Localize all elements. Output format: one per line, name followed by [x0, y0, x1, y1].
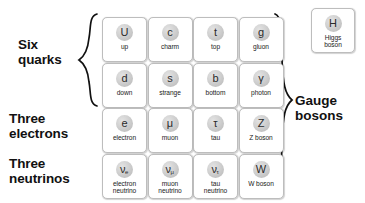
particle-card[interactable]: eelectron [102, 108, 147, 153]
particle-label: down [103, 89, 146, 96]
particle-label: up [103, 43, 146, 50]
particle-symbol: s [167, 72, 173, 83]
particle-label: electron [103, 134, 146, 141]
particle-symbol: μ [167, 118, 173, 129]
particle-card[interactable]: ccharm [148, 17, 193, 62]
particle-label: tau neutrino [194, 180, 237, 195]
particle-symbol: W [256, 163, 266, 174]
particle-card[interactable]: ZZ boson [239, 108, 284, 153]
particle-label: muon [149, 134, 192, 141]
particle-symbol-disc: g [253, 24, 270, 41]
particle-card[interactable]: sstrange [148, 63, 193, 108]
particle-symbol: U [121, 27, 129, 38]
particle-symbol: e [121, 118, 127, 129]
particle-card[interactable]: ttop [193, 17, 238, 62]
particle-symbol-subscript: μ [171, 169, 174, 175]
group-label-three-neutrinos: Three neutrinos [9, 157, 70, 186]
particle-card[interactable]: μmuon [148, 108, 193, 153]
particle-label: strange [149, 89, 192, 96]
particle-label: charm [149, 43, 192, 50]
particle-symbol-disc: e [116, 115, 133, 132]
particle-symbol: b [212, 72, 218, 83]
particle-symbol-disc: Z [253, 115, 270, 132]
particle-symbol-disc: t [207, 24, 224, 41]
particle-symbol: γ [258, 72, 264, 83]
particle-symbol-disc: W [253, 161, 270, 178]
left-curly-brace-icon [76, 12, 100, 108]
particle-symbol-disc: H [325, 15, 342, 32]
particle-card[interactable]: ggluon [239, 17, 284, 62]
particle-symbol-disc: U [116, 24, 133, 41]
particle-symbol: τ [213, 118, 217, 129]
particle-symbol-disc: τ [207, 115, 224, 132]
particle-label: gluon [240, 43, 283, 50]
particle-card-higgs[interactable]: H Higgs boson [311, 8, 355, 53]
particle-symbol-disc: b [207, 70, 224, 87]
particle-label: photon [240, 89, 283, 96]
particle-card[interactable]: νμmuon neutrino [148, 154, 193, 199]
particle-symbol-disc: νe [116, 161, 133, 178]
particle-card[interactable]: ddown [102, 63, 147, 108]
particle-label: electron neutrino [103, 180, 146, 195]
particle-card[interactable]: bbottom [193, 63, 238, 108]
particle-symbol-disc: ντ [207, 161, 224, 178]
particle-card[interactable]: τtau [193, 108, 238, 153]
particle-label: Z boson [240, 134, 283, 141]
particle-label: tau [194, 134, 237, 141]
particle-symbol-disc: μ [162, 115, 179, 132]
particle-card[interactable]: νeelectron neutrino [102, 154, 147, 199]
particle-symbol-disc: νμ [162, 161, 179, 178]
particle-label: W boson [240, 180, 283, 187]
particle-symbol-disc: c [162, 24, 179, 41]
particle-card[interactable]: ντtau neutrino [193, 154, 238, 199]
diagram-canvas: Six quarks Three electrons Three neutrin… [0, 0, 365, 203]
group-label-gauge-bosons: Gauge bosons [295, 94, 343, 123]
particle-symbol-disc: γ [253, 70, 270, 87]
particle-symbol-disc: d [116, 70, 133, 87]
particle-symbol: g [258, 27, 264, 38]
particle-label: muon neutrino [149, 180, 192, 195]
group-label-three-electrons: Three electrons [9, 112, 68, 141]
particle-card[interactable]: γphoton [239, 63, 284, 108]
particle-symbol-subscript: e [125, 169, 128, 175]
particle-symbol: H [329, 18, 337, 29]
particle-symbol: c [167, 27, 173, 38]
particle-card[interactable]: Uup [102, 17, 147, 62]
particle-symbol: d [121, 72, 127, 83]
particle-label: top [194, 43, 237, 50]
particle-label: bottom [194, 89, 237, 96]
particle-symbol: Z [258, 118, 265, 129]
group-label-six-quarks: Six quarks [18, 38, 62, 67]
particle-symbol-disc: s [162, 70, 179, 87]
particle-card[interactable]: WW boson [239, 154, 284, 199]
particle-symbol-subscript: τ [217, 169, 219, 175]
particle-label: Higgs boson [312, 34, 354, 49]
particle-symbol: t [214, 27, 217, 38]
